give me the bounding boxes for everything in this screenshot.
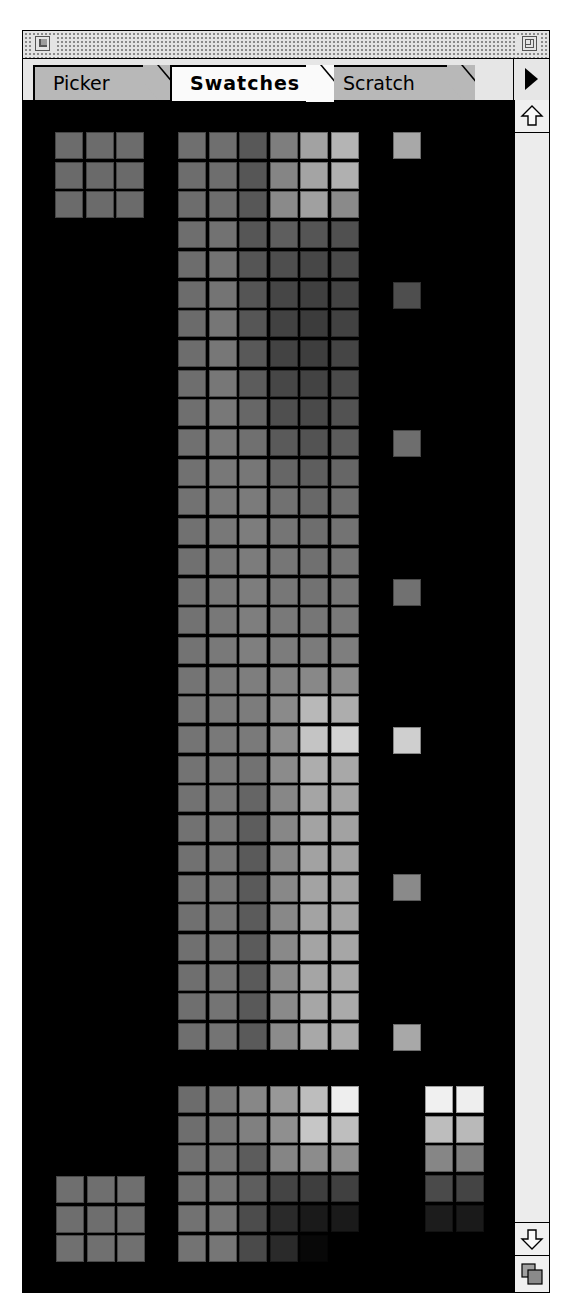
- swatch-cell[interactable]: [239, 785, 267, 812]
- palette-title-bar[interactable]: [23, 31, 549, 59]
- swatch-cell[interactable]: [300, 696, 328, 723]
- swatch-cell[interactable]: [178, 310, 206, 337]
- swatch-cell[interactable]: [456, 1175, 484, 1202]
- swatch-cell[interactable]: [55, 132, 83, 159]
- swatch-cell[interactable]: [178, 459, 206, 486]
- swatch-cell[interactable]: [87, 1206, 115, 1233]
- swatch-cell[interactable]: [116, 132, 144, 159]
- swatch-cell[interactable]: [178, 964, 206, 991]
- swatch-cell[interactable]: [209, 1023, 237, 1050]
- swatch-cell[interactable]: [239, 281, 267, 308]
- swatch-cell[interactable]: [331, 726, 359, 753]
- swatch-cell[interactable]: [300, 1023, 328, 1050]
- swatch-cell[interactable]: [178, 1175, 206, 1202]
- swatch-cell[interactable]: [209, 1086, 237, 1113]
- swatch-cell[interactable]: [331, 607, 359, 634]
- swatch-cell[interactable]: [239, 1175, 267, 1202]
- tab-swatches[interactable]: Swatches: [170, 65, 320, 101]
- swatch-cell[interactable]: [87, 1235, 115, 1262]
- swatch-cell[interactable]: [331, 904, 359, 931]
- swatch-cell[interactable]: [56, 1176, 84, 1203]
- swatch-cell[interactable]: [393, 579, 421, 606]
- swatch-cell[interactable]: [239, 815, 267, 842]
- swatch-cell[interactable]: [331, 548, 359, 575]
- swatch-cell[interactable]: [178, 1023, 206, 1050]
- swatch-cell[interactable]: [270, 845, 298, 872]
- swatch-cell[interactable]: [178, 162, 206, 189]
- swatch-cell[interactable]: [209, 251, 237, 278]
- swatch-cell[interactable]: [331, 1235, 359, 1262]
- swatch-cell[interactable]: [178, 993, 206, 1020]
- swatch-cell[interactable]: [331, 637, 359, 664]
- swatch-cell[interactable]: [270, 637, 298, 664]
- swatch-cell[interactable]: [239, 132, 267, 159]
- swatch-cell[interactable]: [209, 281, 237, 308]
- swatch-cell[interactable]: [178, 578, 206, 605]
- swatch-cell[interactable]: [331, 429, 359, 456]
- swatch-cell[interactable]: [270, 191, 298, 218]
- swatch-cell[interactable]: [209, 578, 237, 605]
- swatch-cell[interactable]: [331, 399, 359, 426]
- swatch-cell[interactable]: [178, 904, 206, 931]
- swatch-cell[interactable]: [209, 399, 237, 426]
- swatch-cell[interactable]: [270, 1086, 298, 1113]
- zoom-box-icon[interactable]: [522, 36, 537, 51]
- swatch-cell[interactable]: [239, 993, 267, 1020]
- swatch-cell[interactable]: [239, 904, 267, 931]
- swatch-cell[interactable]: [178, 1205, 206, 1232]
- swatch-cell[interactable]: [209, 1116, 237, 1143]
- swatch-cell[interactable]: [178, 132, 206, 159]
- swatch-cell[interactable]: [209, 518, 237, 545]
- swatch-cell[interactable]: [178, 1086, 206, 1113]
- swatch-cell[interactable]: [300, 964, 328, 991]
- swatch-cell[interactable]: [270, 310, 298, 337]
- swatch-cell[interactable]: [331, 667, 359, 694]
- swatch-cell[interactable]: [239, 340, 267, 367]
- swatch-cell[interactable]: [300, 1235, 328, 1262]
- swatch-cell[interactable]: [331, 488, 359, 515]
- swatch-cell[interactable]: [209, 459, 237, 486]
- swatch-cell[interactable]: [270, 726, 298, 753]
- swatch-cell[interactable]: [178, 429, 206, 456]
- swatch-cell[interactable]: [331, 964, 359, 991]
- swatch-cell[interactable]: [300, 578, 328, 605]
- swatch-cell[interactable]: [209, 132, 237, 159]
- swatch-cell[interactable]: [270, 1145, 298, 1172]
- swatch-cell[interactable]: [178, 815, 206, 842]
- swatch-cell[interactable]: [331, 281, 359, 308]
- swatch-cell[interactable]: [55, 191, 83, 218]
- swatch-cell[interactable]: [300, 191, 328, 218]
- swatch-cell[interactable]: [209, 488, 237, 515]
- swatch-cell[interactable]: [178, 667, 206, 694]
- swatch-cell[interactable]: [270, 488, 298, 515]
- swatch-cell[interactable]: [86, 132, 114, 159]
- swatch-cell[interactable]: [456, 1205, 484, 1232]
- swatch-cell[interactable]: [209, 1175, 237, 1202]
- swatch-cell[interactable]: [331, 162, 359, 189]
- swatch-cell[interactable]: [331, 578, 359, 605]
- swatch-cell[interactable]: [300, 281, 328, 308]
- swatch-cell[interactable]: [209, 845, 237, 872]
- swatch-cell[interactable]: [300, 993, 328, 1020]
- swatch-cell[interactable]: [300, 607, 328, 634]
- swatch-cell[interactable]: [239, 488, 267, 515]
- swatch-cell[interactable]: [331, 696, 359, 723]
- swatch-cell[interactable]: [209, 904, 237, 931]
- swatch-cell[interactable]: [300, 488, 328, 515]
- swatch-cell[interactable]: [178, 637, 206, 664]
- swatch-cell[interactable]: [331, 1023, 359, 1050]
- swatch-cell[interactable]: [300, 310, 328, 337]
- swatch-cell[interactable]: [270, 221, 298, 248]
- swatch-cell[interactable]: [178, 1145, 206, 1172]
- swatch-cell[interactable]: [239, 607, 267, 634]
- swatch-cell[interactable]: [239, 1145, 267, 1172]
- swatch-cell[interactable]: [300, 815, 328, 842]
- swatch-cell[interactable]: [239, 251, 267, 278]
- swatch-cell[interactable]: [239, 726, 267, 753]
- swatch-cell[interactable]: [300, 251, 328, 278]
- swatch-cell[interactable]: [331, 1175, 359, 1202]
- swatch-cell[interactable]: [209, 607, 237, 634]
- swatch-cell[interactable]: [209, 785, 237, 812]
- swatch-cell[interactable]: [239, 162, 267, 189]
- swatch-cell[interactable]: [209, 726, 237, 753]
